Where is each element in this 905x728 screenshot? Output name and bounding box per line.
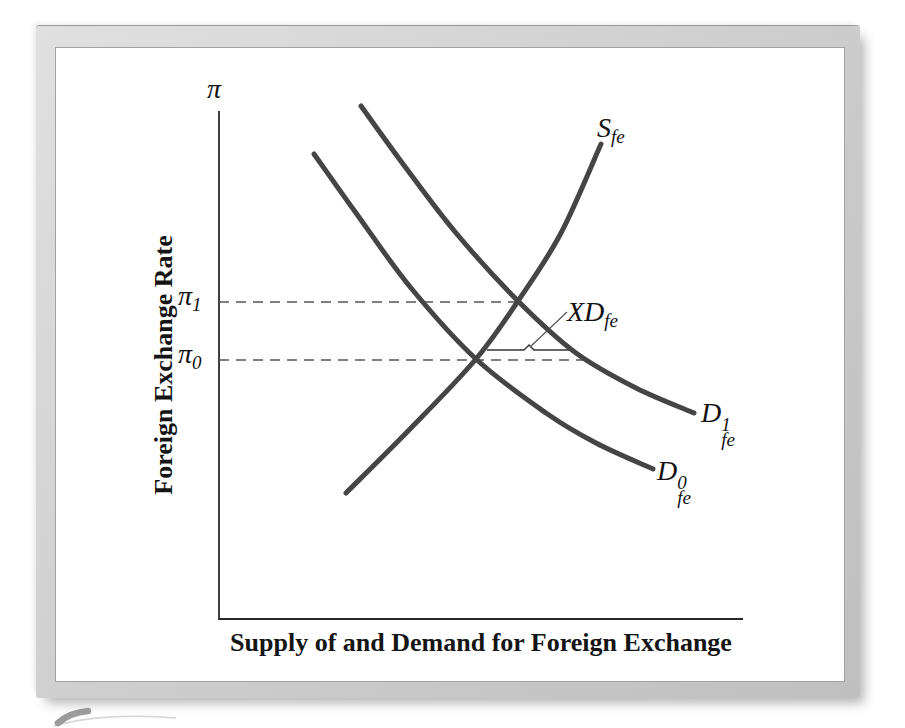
demand0-base: D xyxy=(657,455,677,486)
supply-subscript: fe xyxy=(611,126,625,147)
demand1-base: D xyxy=(701,397,721,428)
demand1-curve-label: D1fe xyxy=(701,399,735,448)
pi1-base: π xyxy=(178,280,192,311)
y-axis-symbol-pi: π xyxy=(207,75,221,103)
excess-demand-base: XD xyxy=(567,296,604,327)
supply-base: S xyxy=(597,112,611,143)
pi1-label: π1 xyxy=(178,282,202,314)
pi1-subscript: 1 xyxy=(192,294,202,315)
demand0-subscript: fe xyxy=(677,490,691,506)
y-axis-title: Foreign Exchange Rate xyxy=(151,235,177,495)
page-background: π π1 π0 Sfe D1fe D0fe XDfe Foreign Excha… xyxy=(0,0,905,728)
pi0-base: π xyxy=(178,338,192,369)
figure-frame: π π1 π0 Sfe D1fe D0fe XDfe Foreign Excha… xyxy=(36,26,860,698)
decorative-swoosh xyxy=(50,706,180,728)
pi0-label: π0 xyxy=(178,340,202,372)
plot-area: π π1 π0 Sfe D1fe D0fe XDfe Foreign Excha… xyxy=(55,47,845,682)
demand0-curve-label: D0fe xyxy=(657,457,691,506)
demand1-subscript: fe xyxy=(721,432,735,448)
excess-demand-label: XDfe xyxy=(567,298,618,330)
pi0-subscript: 0 xyxy=(192,352,202,373)
supply-curve-label: Sfe xyxy=(597,114,625,146)
x-axis-title: Supply of and Demand for Foreign Exchang… xyxy=(219,630,743,656)
excess-demand-subscript: fe xyxy=(604,310,618,331)
